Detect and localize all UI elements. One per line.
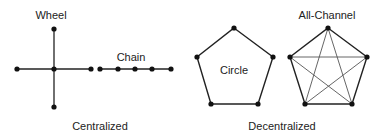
all-channel-label: All-Channel xyxy=(299,9,356,21)
all-channel-network xyxy=(287,25,369,106)
centralized-label: Centralized xyxy=(72,120,128,132)
wheel-label: Wheel xyxy=(35,9,66,21)
decentralized-label: Decentralized xyxy=(248,120,315,132)
circle-label: Circle xyxy=(220,64,248,76)
chain-label: Chain xyxy=(117,51,146,63)
